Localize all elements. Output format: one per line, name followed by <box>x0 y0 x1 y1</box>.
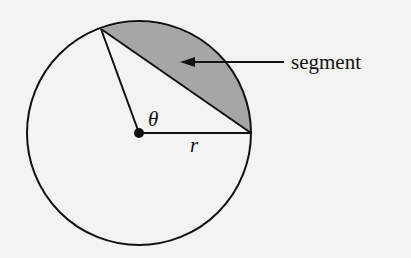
segment-diagram: segment θ r <box>0 0 411 258</box>
background <box>0 0 411 258</box>
center-point <box>134 128 144 138</box>
radius-label: r <box>190 133 199 157</box>
segment-label: segment <box>291 50 361 74</box>
theta-label: θ <box>148 107 158 131</box>
